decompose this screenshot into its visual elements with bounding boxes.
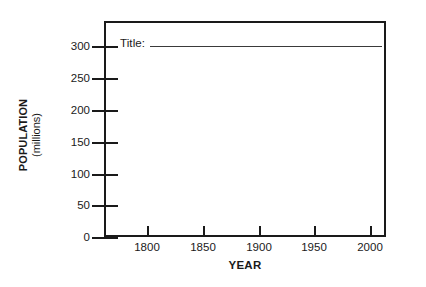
y-tick-mark-300 (92, 46, 118, 48)
chart-title-prompt-label: Title: (120, 36, 150, 50)
x-tick-label-1850-wrap: 1850 (173, 240, 233, 254)
x-tick-mark-1850 (203, 226, 205, 237)
x-tick-mark-1900 (259, 226, 261, 237)
x-tick-label-1800-wrap: 1800 (117, 240, 177, 254)
x-tick-label-2000: 2000 (340, 240, 400, 254)
x-tick-label-1800: 1800 (117, 240, 177, 254)
y-tick-mark-250 (92, 78, 118, 80)
x-tick-label-1900: 1900 (229, 240, 289, 254)
chart-title-blank-line[interactable] (150, 46, 382, 47)
y-tick-label-50: 50 (34, 199, 90, 211)
y-axis-title-units: (millions) (30, 80, 43, 190)
y-tick-label-300-wrap: 300 (30, 40, 90, 52)
y-tick-mark-100 (92, 174, 118, 176)
x-tick-mark-1800 (147, 226, 149, 237)
worksheet-graph-canvas: Title: 0 50 100 150 200 250 300 POPULATI… (0, 0, 426, 287)
x-axis-title: YEAR (104, 259, 386, 271)
y-axis-title-main: POPULATION (17, 80, 30, 190)
x-tick-label-1950: 1950 (284, 240, 344, 254)
y-axis-title: POPULATION (millions) (17, 80, 47, 190)
x-tick-mark-1950 (314, 226, 316, 237)
x-tick-label-1900-wrap: 1900 (229, 240, 289, 254)
x-tick-mark-2000 (370, 226, 372, 237)
y-tick-mark-50 (92, 205, 118, 207)
y-tick-mark-0 (92, 237, 118, 239)
y-tick-label-50-wrap: 50 (30, 199, 90, 211)
x-tick-label-1950-wrap: 1950 (284, 240, 344, 254)
y-tick-mark-200 (92, 110, 118, 112)
y-tick-label-0: 0 (34, 231, 90, 243)
y-tick-label-300: 300 (34, 40, 90, 52)
plot-area (104, 21, 386, 237)
y-tick-mark-150 (92, 142, 118, 144)
y-tick-label-0-wrap: 0 (30, 231, 90, 243)
x-tick-label-2000-wrap: 2000 (340, 240, 400, 254)
x-tick-label-1850: 1850 (173, 240, 233, 254)
chart-title-row: Title: (120, 30, 386, 50)
